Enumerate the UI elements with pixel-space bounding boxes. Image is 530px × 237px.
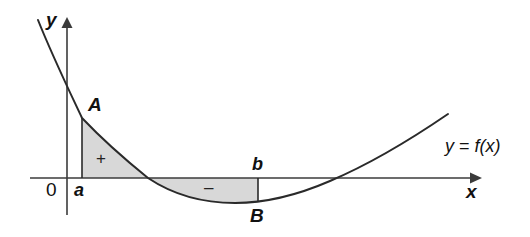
function-curve-label: y = f(x) [445,137,501,155]
y-axis-arrowhead [62,17,73,28]
bound-label-a: a [74,181,84,199]
x-axis-label: x [466,182,477,201]
function-label-y: y [445,136,454,156]
origin-label: 0 [46,180,57,199]
bound-label-b: b [252,155,263,173]
positive-sign-label: + [96,150,106,167]
y-axis-label: y [46,10,57,29]
negative-sign-label: – [204,179,213,196]
figure-canvas: y x 0 A B a b + – y = f(x) [0,0,530,237]
point-label-a-upper: A [88,95,102,114]
function-label-equals: = [459,136,470,156]
function-label-fx: f(x) [475,136,501,156]
graph-svg [0,0,530,237]
point-label-b-upper: B [250,206,264,225]
